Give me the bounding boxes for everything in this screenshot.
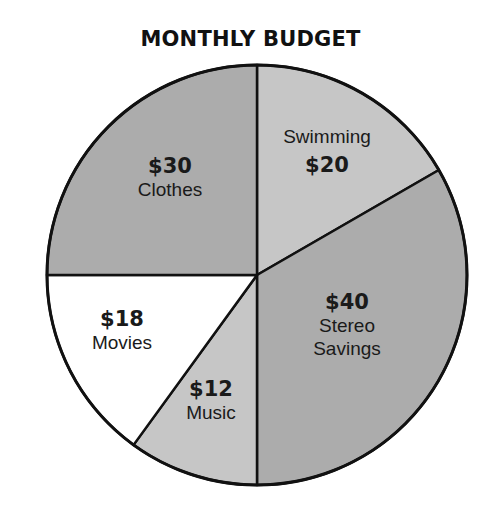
slice-label-movies: $18 Movies bbox=[92, 307, 152, 355]
slice-amount: $12 bbox=[186, 377, 236, 402]
pie-chart bbox=[0, 0, 501, 505]
slice-amount: $40 bbox=[313, 290, 381, 315]
slice-name: Swimming bbox=[283, 126, 371, 149]
slice-name: Movies bbox=[92, 332, 152, 355]
slice-label-stereo-savings: $40 Stereo Savings bbox=[313, 290, 381, 361]
slice-label-music: $12 Music bbox=[186, 377, 236, 425]
slice-name: Music bbox=[186, 402, 236, 425]
slice-name: Stereo bbox=[313, 315, 381, 338]
slice-name: Clothes bbox=[138, 179, 202, 202]
slice-label-clothes: $30 Clothes bbox=[138, 154, 202, 202]
pie-slices bbox=[47, 65, 467, 485]
slice-amount: $18 bbox=[92, 307, 152, 332]
slice-label-swimming: Swimming $20 bbox=[283, 126, 371, 178]
slice-amount: $30 bbox=[138, 154, 202, 179]
slice-amount: $20 bbox=[283, 153, 371, 178]
slice-name-line2: Savings bbox=[313, 338, 381, 361]
